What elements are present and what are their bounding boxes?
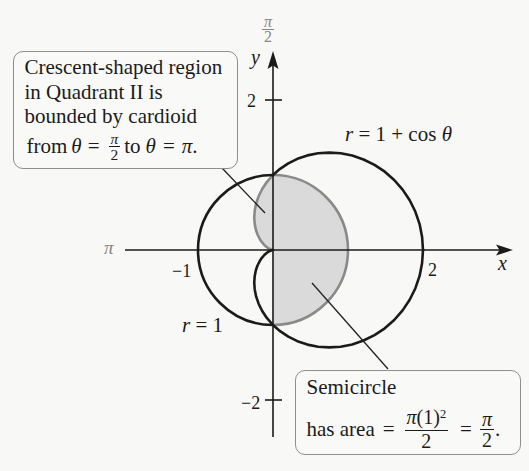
equals-sign: = (163, 136, 175, 157)
semicircle-area-formula: has area = π(1)2 2 = π 2 . (307, 407, 501, 451)
polar-area-figure: π 2 π y x 2 −2 −1 2 r = 1 + cos θ r = 1 … (0, 0, 529, 471)
pi-r-squared-over-2-fraction: π(1)2 2 (405, 407, 449, 451)
pi-over-2-fraction: π 2 (109, 131, 121, 162)
pi-symbol: π (407, 406, 417, 428)
semicircle-leader-line (312, 283, 388, 369)
to-word: to (124, 136, 140, 157)
crescent-callout: Crescent-shaped region in Quadrant II is… (13, 51, 238, 169)
from-word: from (27, 136, 68, 157)
equals-sign: = (460, 419, 472, 440)
fraction-numerator: π(1)2 (405, 407, 449, 431)
x-tick-label-neg-1: −1 (172, 262, 191, 280)
y-tick-label-neg-2: −2 (241, 394, 260, 412)
polar-angle-label-top: π 2 (262, 15, 274, 44)
y-tick-label-2: 2 (247, 92, 256, 110)
circle-label-text: = 1 (190, 313, 223, 337)
crescent-callout-line-1: Crescent-shaped region (25, 55, 223, 80)
radius-parenthesized: (1) (417, 406, 440, 428)
fraction-denominator: 2 (421, 431, 431, 451)
polar-top-denominator: 2 (264, 30, 272, 44)
cardioid-label-text: = 1 + cos (353, 122, 441, 146)
has-area-text: has area (307, 419, 375, 440)
theta-symbol: θ (71, 136, 81, 157)
pi-over-2-fraction: π 2 (480, 409, 494, 450)
circle-label-var: r (182, 313, 190, 337)
circle-equation-label: r = 1 (182, 315, 223, 336)
crescent-callout-line-2: in Quadrant II is (25, 80, 163, 105)
period: . (495, 419, 500, 440)
fraction-numerator: π (109, 131, 121, 147)
cardioid-label-theta: θ (442, 122, 452, 146)
semicircle-callout: Semicircle has area = π(1)2 2 = π 2 . (295, 370, 521, 455)
cardioid-equation-label: r = 1 + cos θ (345, 124, 452, 145)
exponent: 2 (440, 407, 446, 421)
semicircle-callout-title: Semicircle (307, 375, 397, 400)
fraction-denominator: 2 (482, 430, 492, 450)
cardioid-label-var: r (345, 122, 353, 146)
crescent-callout-line-3: bounded by cardioid (25, 104, 198, 129)
pi-symbol: π (182, 136, 193, 157)
polar-angle-label-left: π (104, 238, 114, 257)
period: . (192, 136, 197, 157)
equals-sign: = (88, 136, 100, 157)
x-tick-label-2: 2 (428, 261, 437, 279)
crescent-callout-line-4: from θ = π 2 to θ = π . (27, 131, 198, 162)
x-axis-label: x (498, 253, 507, 273)
theta-symbol: θ (146, 136, 156, 157)
equals-sign: = (383, 419, 395, 440)
fraction-numerator: π (480, 409, 494, 430)
fraction-denominator: 2 (111, 147, 119, 162)
y-axis-label: y (251, 47, 260, 67)
